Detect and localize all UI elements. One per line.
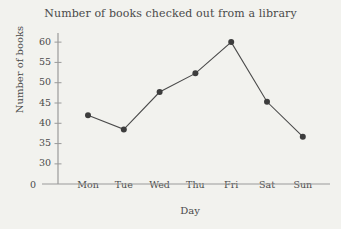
plot-area xyxy=(0,0,341,229)
data-point-fri xyxy=(228,39,234,45)
data-point-mon xyxy=(85,112,91,118)
data-point-sun xyxy=(300,134,306,140)
axes xyxy=(42,33,330,184)
data-point-wed xyxy=(157,89,163,95)
data-line xyxy=(88,42,303,137)
line-chart: Number of books checked out from a libra… xyxy=(0,0,341,229)
data-markers xyxy=(85,39,306,140)
data-point-tue xyxy=(121,126,127,132)
data-point-sat xyxy=(264,99,270,105)
data-point-thu xyxy=(192,70,198,76)
